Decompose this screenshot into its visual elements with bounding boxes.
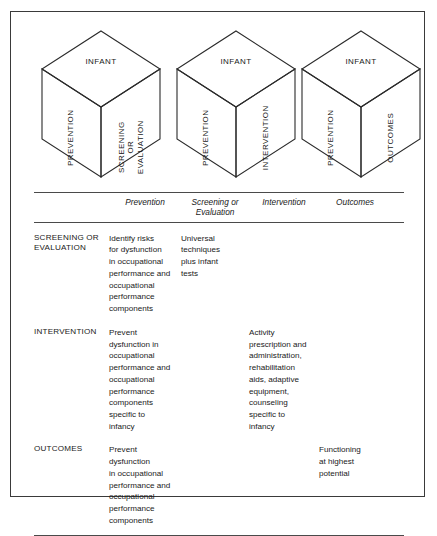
cell-outcomes-outcomes: Functioning at highest potential <box>319 444 391 479</box>
cell-screening-prevention: Identify risks for dysfunction in occupa… <box>109 233 181 315</box>
cube-left-face-label: PREVENTION <box>326 96 335 180</box>
figure-frame: INFANT PREVENTION SCREENING OR EVALUATIO… <box>10 11 425 497</box>
cube-screening: INFANT PREVENTION SCREENING OR EVALUATIO… <box>36 25 166 185</box>
cell-outcomes-prevention: Prevent dysfunction in occupational perf… <box>109 444 181 526</box>
cube-intervention-shape <box>171 25 301 185</box>
column-header-outcomes: Outcomes <box>319 197 391 207</box>
column-header-prevention: Prevention <box>109 197 181 207</box>
cube-right-face-label: OUTCOMES <box>386 96 395 180</box>
cube-top-face-label: INFANT <box>36 57 166 66</box>
table-bottom-rule <box>34 535 404 536</box>
cube-screening-shape <box>36 25 166 185</box>
cube-top-face-label: INFANT <box>171 57 301 66</box>
comparison-matrix-table: Prevention Screening or Evaluation Inter… <box>34 192 404 536</box>
row-label-screening-or-evaluation: SCREENING OR EVALUATION <box>34 233 109 254</box>
row-label-intervention: INTERVENTION <box>34 327 109 338</box>
column-header-screening-or-evaluation: Screening or Evaluation <box>181 197 249 218</box>
cube-outcomes-shape <box>296 25 426 185</box>
cell-screening-screening: Universal techniques plus infant tests <box>181 233 249 280</box>
table-header-row: Prevention Screening or Evaluation Inter… <box>34 193 404 222</box>
cube-intervention: INFANT PREVENTION INTERVENTION <box>171 25 301 185</box>
cube-right-face-label: SCREENING OR EVALUATION <box>117 105 145 189</box>
cube-right-face-label: INTERVENTION <box>261 96 270 180</box>
cube-left-face-label: PREVENTION <box>66 96 75 180</box>
cell-intervention-prevention: Prevent dysfunction in occupational perf… <box>109 327 181 433</box>
cube-diagram-row: INFANT PREVENTION SCREENING OR EVALUATIO… <box>11 25 426 190</box>
cell-intervention-intervention: Activity prescription and administration… <box>249 327 319 433</box>
cube-top-face-label: INFANT <box>296 57 426 66</box>
cube-left-face-label: PREVENTION <box>201 96 210 180</box>
cube-outcomes: INFANT PREVENTION OUTCOMES <box>296 25 426 185</box>
table-row: OUTCOMES Prevent dysfunction in occupati… <box>34 434 404 528</box>
table-row: SCREENING OR EVALUATION Identify risks f… <box>34 223 404 317</box>
table-row: INTERVENTION Prevent dysfunction in occu… <box>34 317 404 435</box>
column-header-intervention: Intervention <box>249 197 319 207</box>
row-label-outcomes: OUTCOMES <box>34 444 109 455</box>
